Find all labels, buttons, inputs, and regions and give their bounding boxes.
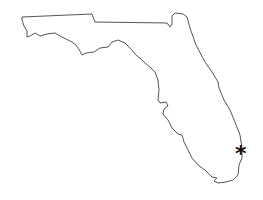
florida-outline: [22, 13, 242, 183]
asterisk-marker-icon: *: [235, 143, 247, 165]
florida-map: [0, 0, 263, 200]
